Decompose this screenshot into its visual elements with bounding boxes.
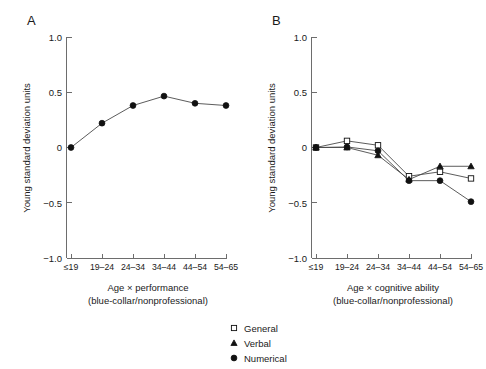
data-point-circle — [68, 145, 74, 151]
panel-a-ytick-3: 0 — [57, 142, 62, 153]
panel-a-markers-performance — [68, 93, 229, 150]
filled-circle-icon — [231, 355, 237, 361]
panel-b-line-numerical — [316, 147, 471, 202]
data-point-circle — [437, 178, 443, 184]
panel-b-ytick-5: −1.0 — [288, 253, 307, 264]
legend-label-numerical: Numerical — [244, 353, 287, 364]
legend-label-verbal: Verbal — [244, 338, 271, 349]
data-point-circle — [313, 145, 319, 151]
open-square-icon — [231, 325, 236, 330]
panel-b-y-tick-labels: 1.0 0.5 0 −0.5 −1.0 — [288, 32, 307, 264]
panel-b-y-axis-title: Young standard deviation units — [266, 83, 277, 213]
panel-a-y-axis-title: Young standard deviation units — [21, 83, 32, 213]
panel-b-line-general — [316, 141, 471, 179]
panel-a-x-ticks — [71, 254, 226, 259]
panel-b-xtick-6: 54–65 — [459, 262, 483, 272]
data-point-circle — [344, 144, 350, 150]
legend-item-general: General — [231, 323, 277, 334]
figure-canvas: A Young standard deviation units 1.0 0.5… — [0, 0, 486, 369]
panel-b-x-axis-subtitle: (blue-collar/nonprofessional) — [333, 295, 453, 306]
data-point-circle — [99, 120, 105, 126]
panel-b-x-ticks — [316, 254, 471, 259]
data-point-square — [437, 169, 442, 174]
panel-a-xtick-1: ≤19 — [64, 262, 79, 272]
panel-b: B Young standard deviation units 1.0 0.5… — [266, 13, 483, 306]
filled-triangle-icon — [231, 340, 237, 346]
panel-b-xtick-1: ≤19 — [309, 262, 324, 272]
data-point-circle — [192, 100, 198, 106]
legend-item-numerical: Numerical — [231, 353, 287, 364]
panel-b-xtick-3: 24–34 — [366, 262, 390, 272]
panel-a-xtick-6: 54–65 — [214, 262, 238, 272]
panel-b-xtick-5: 44–54 — [428, 262, 452, 272]
panel-b-label: B — [272, 13, 281, 28]
data-point-circle — [406, 178, 412, 184]
panel-a-x-tick-labels: ≤19 19–24 24–34 34–44 44–54 54–65 — [64, 262, 238, 272]
panel-a-ytick-2: 0.5 — [49, 87, 62, 98]
panel-b-x-axis-title: Age × cognitive ability — [347, 282, 439, 293]
panel-a-ytick-4: −0.5 — [43, 198, 62, 209]
data-point-square — [468, 176, 473, 181]
panel-a: A Young standard deviation units 1.0 0.5… — [21, 13, 238, 306]
legend-label-general: General — [244, 323, 278, 334]
data-point-square — [375, 143, 380, 148]
panel-a-xtick-4: 34–44 — [152, 262, 176, 272]
panel-b-series-verbal — [313, 144, 474, 182]
legend-item-verbal: Verbal — [231, 338, 271, 349]
panel-b-markers-verbal — [313, 144, 474, 182]
panel-a-line-performance — [71, 96, 226, 147]
data-point-square — [344, 138, 349, 143]
panel-b-ytick-1: 1.0 — [294, 32, 307, 43]
panel-b-ytick-4: −0.5 — [288, 198, 307, 209]
data-point-circle — [223, 103, 229, 109]
panel-b-line-verbal — [316, 148, 471, 180]
data-point-circle — [161, 93, 167, 99]
panel-a-xtick-5: 44–54 — [183, 262, 207, 272]
legend: General Verbal Numerical — [231, 323, 287, 364]
panel-a-x-axis-subtitle: (blue-collar/nonprofessional) — [88, 295, 208, 306]
panel-a-ytick-1: 1.0 — [49, 32, 62, 43]
panel-b-series-general — [313, 138, 473, 181]
panel-b-markers-general — [313, 138, 473, 181]
panel-a-x-axis-title: Age × performance — [107, 282, 188, 293]
panel-a-ytick-5: −1.0 — [43, 253, 62, 264]
panel-a-xtick-3: 24–34 — [121, 262, 145, 272]
panel-b-xtick-2: 19–24 — [335, 262, 359, 272]
panel-b-ytick-2: 0.5 — [294, 87, 307, 98]
panel-b-xtick-4: 34–44 — [397, 262, 421, 272]
data-point-circle — [468, 199, 474, 205]
panel-a-y-tick-labels: 1.0 0.5 0 −0.5 −1.0 — [43, 32, 62, 264]
data-point-circle — [375, 148, 381, 154]
panel-a-xtick-2: 19–24 — [90, 262, 114, 272]
panel-a-series-performance — [68, 93, 229, 150]
data-point-circle — [130, 103, 136, 109]
panel-b-ytick-3: 0 — [302, 142, 307, 153]
panel-a-label: A — [27, 13, 36, 28]
panel-b-x-tick-labels: ≤19 19–24 24–34 34–44 44–54 54–65 — [309, 262, 483, 272]
